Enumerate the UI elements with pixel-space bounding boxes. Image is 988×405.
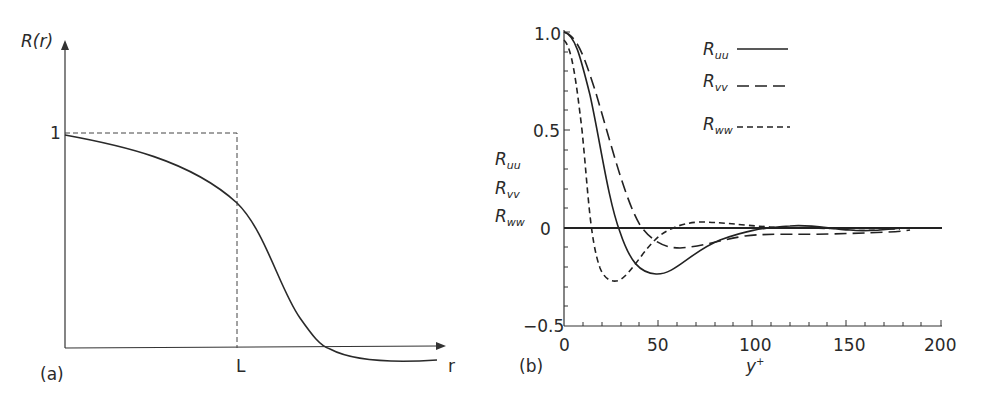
figure: R(r) 1 L r (a) 1.0 0.5 0 −0.5 0 — [0, 0, 988, 405]
y-ticks-b — [564, 32, 570, 306]
x-label-b: y+ — [745, 356, 764, 376]
legend-label-rww: Rww — [703, 114, 733, 137]
curve-rww — [564, 40, 900, 281]
x-tick-0: 0 — [559, 335, 570, 355]
panel-tag-b: (b) — [519, 356, 543, 376]
x-tick-100: 100 — [739, 335, 771, 355]
integral-scale-box — [65, 133, 237, 348]
y-label-ruu: Ruu — [495, 149, 521, 172]
y-tick-0.5: 0.5 — [533, 121, 560, 141]
y-tick-1: 1 — [50, 123, 61, 143]
curve-rvv — [564, 32, 910, 248]
legend-label-rvv: Rvv — [703, 71, 728, 94]
x-axis-arrow-icon — [436, 342, 446, 350]
x-tick-50: 50 — [647, 335, 669, 355]
x-tick-150: 150 — [833, 335, 865, 355]
panel-b: 1.0 0.5 0 −0.5 0 50 100 150 200 y+ (b) R… — [495, 24, 956, 376]
y-tick-0: 0 — [540, 219, 551, 239]
legend-label-ruu: Ruu — [703, 39, 729, 62]
x-ticks-b — [583, 320, 941, 326]
y-axis-arrow-icon — [61, 40, 69, 50]
y-tick-neg0.5: −0.5 — [523, 316, 564, 336]
y-label-a: R(r) — [21, 31, 53, 51]
y-label-rvv: Rvv — [495, 178, 520, 201]
correlation-curve — [65, 135, 437, 361]
y-tick-1.0: 1.0 — [534, 24, 561, 44]
y-label-rww: Rww — [495, 206, 525, 229]
x-tick-200: 200 — [924, 335, 956, 355]
x-label-a: r — [448, 356, 455, 376]
x-tick-L: L — [236, 356, 246, 376]
panel-tag-a: (a) — [40, 364, 64, 384]
legend: Ruu Rvv Rww — [703, 39, 790, 137]
panel-a: R(r) 1 L r (a) — [21, 31, 455, 384]
x-axis-a — [65, 346, 438, 348]
